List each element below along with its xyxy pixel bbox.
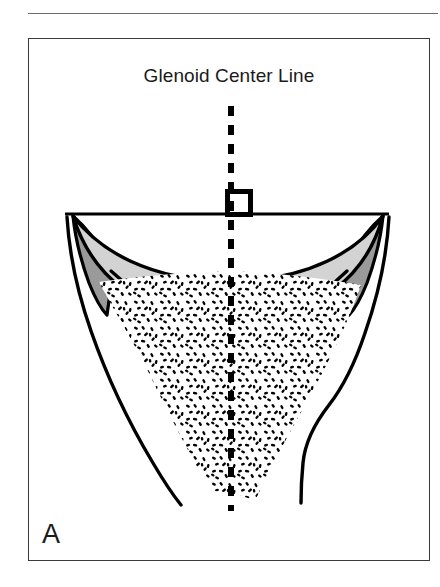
glenoid-illustration-svg — [29, 39, 429, 560]
figure-frame: Glenoid Center Line — [28, 38, 430, 561]
glenoid-illustration — [29, 39, 429, 560]
panel-label: A — [42, 521, 60, 548]
figure-page: Glenoid Center Line — [0, 0, 440, 587]
section-divider-rule — [28, 13, 438, 14]
